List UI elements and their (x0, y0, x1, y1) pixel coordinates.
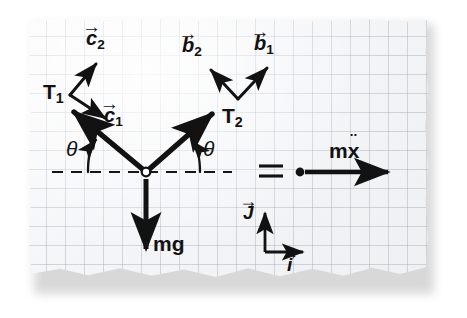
unit-vector-c2-arrow (70, 64, 96, 95)
label-basis-vector-i: → i (287, 255, 292, 274)
label-weight-mg: mg (153, 233, 185, 254)
label-basis-vector-j: → J (243, 203, 254, 222)
label-unit-vector-b1: → b 1 (254, 33, 274, 53)
angle-theta-right-arc (192, 141, 200, 172)
vector-accent-icon: → (82, 17, 101, 36)
label-unit-vector-c2: → c 2 (86, 28, 105, 48)
vector-accent-icon: → (281, 244, 299, 262)
label-angle-theta-right: θ (203, 138, 214, 159)
vector-accent-icon: → (100, 94, 119, 113)
unit-vector-b1-arrow (238, 68, 267, 99)
label-angle-theta-left: θ (66, 138, 77, 159)
label-inertial-term-mxddot: m¨x (329, 140, 359, 161)
pivot-node (142, 168, 151, 177)
vector-accent-icon: → (239, 192, 257, 210)
label-tension-t2: T2 (222, 105, 243, 126)
figure-canvas: → c 2 T1 → c 1 → b 2 → b 1 T2 θ θ mg (0, 0, 467, 318)
unit-vector-b2-arrow (211, 70, 238, 99)
label-unit-vector-c1: → c 1 (104, 105, 123, 125)
double-dot-accent-icon: ¨ (351, 133, 357, 151)
vector-accent-icon: → (179, 24, 198, 43)
point-mass-dot (296, 168, 305, 177)
angle-theta-left-arc (88, 140, 96, 172)
equals-sign (259, 166, 283, 176)
vector-accent-icon: → (251, 22, 270, 41)
label-tension-t1: T1 (43, 81, 64, 102)
label-unit-vector-b2: → b 2 (182, 35, 202, 55)
